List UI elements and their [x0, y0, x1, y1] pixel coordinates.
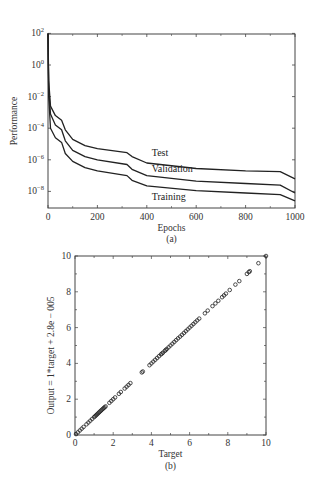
plot-frame	[48, 34, 295, 208]
x-tick-label: 1000	[286, 212, 305, 222]
y-tick-label: 10	[62, 251, 72, 261]
series-label-validation: Validation	[152, 163, 193, 174]
x-tick-label: 600	[189, 212, 204, 222]
series-label-test: Test	[152, 147, 169, 158]
y-tick-label: 10−2	[28, 90, 44, 102]
series-label-training: Training	[152, 191, 186, 202]
panel-caption: (b)	[165, 461, 176, 472]
data-point	[206, 309, 210, 313]
y-tick-label: 8	[66, 287, 71, 297]
x-tick-label: 0	[73, 438, 78, 448]
y-tick-label: 102	[31, 26, 44, 38]
x-tick-label: 200	[90, 212, 105, 222]
figure: 02004006008001000 10210010−210−410−610−8…	[0, 0, 319, 497]
scatter-points	[74, 254, 268, 436]
y-tick-label: 10−8	[28, 184, 44, 196]
y-tick-label: 2	[66, 394, 71, 404]
x-tick-label: 800	[238, 212, 253, 222]
data-point	[228, 288, 232, 292]
data-point	[217, 299, 221, 303]
y-tick-label: 4	[66, 358, 71, 368]
data-point	[234, 283, 238, 287]
x-tick-label: 0	[46, 212, 51, 222]
x-tick-label: 400	[140, 212, 155, 222]
regression-scatter-chart: 0246810 0246810 Target Output = 1*target…	[46, 251, 271, 472]
y-tick-label: 0	[66, 430, 71, 440]
x-tick-label: 2	[111, 438, 116, 448]
performance-curves	[48, 33, 295, 201]
data-point	[238, 279, 242, 283]
x-axis-ticks: 0246810	[73, 256, 271, 448]
data-point	[141, 370, 145, 374]
y-axis-label: Output = 1*target + 2.8e − 005	[46, 296, 56, 414]
curve-training	[48, 33, 295, 201]
plot-frame	[75, 256, 266, 435]
x-tick-label: 8	[225, 438, 230, 448]
data-point	[248, 269, 252, 273]
y-tick-label: 10−4	[28, 121, 45, 133]
x-axis-label: Target	[159, 449, 183, 459]
performance-chart: 02004006008001000 10210010−210−410−610−8…	[9, 26, 305, 245]
y-axis-label: Performance	[9, 97, 19, 146]
y-tick-label: 6	[66, 323, 71, 333]
panel-caption: (a)	[166, 234, 177, 245]
x-tick-label: 4	[149, 438, 154, 448]
x-tick-label: 6	[187, 438, 192, 448]
series-labels: TestValidationTraining	[152, 147, 193, 202]
data-point	[257, 261, 261, 265]
y-tick-label: 100	[31, 58, 44, 70]
x-tick-label: 10	[261, 438, 271, 448]
y-axis-ticks: 0246810	[62, 251, 267, 440]
y-tick-label: 10−6	[28, 153, 45, 165]
x-axis-label: Epochs	[158, 223, 186, 233]
